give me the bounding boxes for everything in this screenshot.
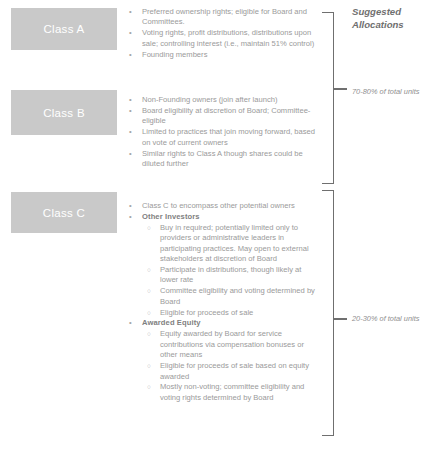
bullet-marker-icon: • xyxy=(129,28,139,38)
sub-bullet-marker-icon: ○ xyxy=(147,265,157,275)
list-item-text: Equity awarded by Board for service cont… xyxy=(160,329,316,360)
list-item-text: Eligible for proceeds of sale xyxy=(160,308,316,318)
bracket-spine xyxy=(333,190,334,436)
class-box-class-a: Class A xyxy=(11,8,117,50)
sub-bullet-marker-icon: ○ xyxy=(147,308,157,318)
bracket-arm-bottom xyxy=(322,435,334,436)
sub-bullet-marker-icon: ○ xyxy=(147,223,157,233)
list-item: • Similar rights to Class A though share… xyxy=(126,149,316,170)
bracket-arm-top xyxy=(322,12,334,13)
bullet-marker-icon: • xyxy=(129,7,139,17)
list-item-text: Non-Founding owners (join after launch) xyxy=(142,95,316,105)
list-item: ○ Committee eligibility and voting deter… xyxy=(126,286,316,307)
class-box-class-b: Class B xyxy=(11,90,117,135)
sub-bullet-marker-icon: ○ xyxy=(147,361,157,371)
bracket-arm-middle xyxy=(333,318,347,320)
list-item-text: Voting rights, profit distributions, dis… xyxy=(142,28,316,49)
list-item-text: Committee eligibility and voting determi… xyxy=(160,286,316,307)
list-item-text: Board eligibility at discretion of Board… xyxy=(142,106,316,127)
list-item-text: Participate in distributions, though lik… xyxy=(160,265,316,286)
bullet-marker-icon: • xyxy=(129,318,139,328)
list-item-text: Class C to encompass other potential own… xyxy=(142,201,316,211)
class-box-label: Class C xyxy=(43,207,85,219)
list-item-text: Limited to practices that join moving fo… xyxy=(142,127,316,148)
equity-class-structure-slide: Class A Class B Class C • Preferred owne… xyxy=(0,0,434,455)
allocation-label-class-c: 20-30% of total units xyxy=(352,314,432,324)
class-box-label: Class A xyxy=(43,23,84,35)
sub-bullet-marker-icon: ○ xyxy=(147,286,157,296)
bracket-arm-middle xyxy=(333,88,347,90)
class-box-label: Class B xyxy=(43,107,85,119)
list-item-text: Preferred ownership rights; eligible for… xyxy=(142,7,316,28)
list-item-text: Awarded Equity xyxy=(142,318,316,328)
bullet-marker-icon: • xyxy=(129,95,139,105)
bracket-arm-bottom xyxy=(322,183,334,184)
list-item-text: Founding members xyxy=(142,50,316,60)
bullet-marker-icon: • xyxy=(129,201,139,211)
list-item: ○ Participate in distributions, though l… xyxy=(126,265,316,286)
list-item: ○ Eligible for proceeds of sale based on… xyxy=(126,361,316,382)
bullet-marker-icon: • xyxy=(129,127,139,137)
class-a-bullet-list: • Preferred ownership rights; eligible f… xyxy=(126,7,316,61)
list-item-heading: • Other Investors xyxy=(126,212,316,222)
list-item-text: Similar rights to Class A though shares … xyxy=(142,149,316,170)
class-b-bullet-list: • Non-Founding owners (join after launch… xyxy=(126,95,316,170)
list-item-text: Eligible for proceeds of sale based on e… xyxy=(160,361,316,382)
list-item: ○ Equity awarded by Board for service co… xyxy=(126,329,316,360)
sub-bullet-marker-icon: ○ xyxy=(147,382,157,392)
bullet-marker-icon: • xyxy=(129,106,139,116)
list-item: ○ Eligible for proceeds of sale xyxy=(126,308,316,318)
bullet-marker-icon: • xyxy=(129,149,139,159)
list-item: • Non-Founding owners (join after launch… xyxy=(126,95,316,105)
bracket-class-a-b xyxy=(319,12,337,184)
list-item: • Board eligibility at discretion of Boa… xyxy=(126,106,316,127)
bullet-marker-icon: • xyxy=(129,212,139,222)
bracket-class-c xyxy=(319,190,337,436)
allocation-label-class-a-b: 70-80% of total units xyxy=(352,87,432,97)
bracket-spine xyxy=(333,12,334,184)
allocations-heading: Suggested Allocations xyxy=(352,6,432,31)
class-box-class-c: Class C xyxy=(11,192,117,233)
list-item: ○ Mostly non-voting; committee eligibili… xyxy=(126,382,316,403)
list-item-text: Buy in required; potentially limited onl… xyxy=(160,223,316,265)
list-item-heading: • Awarded Equity xyxy=(126,318,316,328)
bracket-arm-top xyxy=(322,190,334,191)
list-item: • Preferred ownership rights; eligible f… xyxy=(126,7,316,28)
class-c-bullet-list: • Class C to encompass other potential o… xyxy=(126,201,316,404)
list-item: • Founding members xyxy=(126,50,316,60)
bullet-marker-icon: • xyxy=(129,50,139,60)
list-item: • Voting rights, profit distributions, d… xyxy=(126,28,316,49)
list-item-text: Other Investors xyxy=(142,212,316,222)
sub-bullet-marker-icon: ○ xyxy=(147,329,157,339)
list-item: • Class C to encompass other potential o… xyxy=(126,201,316,211)
list-item-text: Mostly non-voting; committee eligibility… xyxy=(160,382,316,403)
list-item: ○ Buy in required; potentially limited o… xyxy=(126,223,316,265)
list-item: • Limited to practices that join moving … xyxy=(126,127,316,148)
